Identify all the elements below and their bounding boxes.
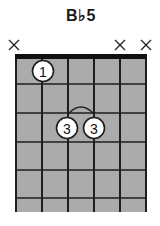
muted-markers <box>9 40 151 50</box>
mute-x-icon <box>141 40 151 50</box>
finger-dot: 3 <box>57 118 78 139</box>
svg-text:3: 3 <box>63 121 71 137</box>
svg-text:3: 3 <box>90 121 98 137</box>
finger-dot: 3 <box>84 118 105 139</box>
mute-x-icon <box>115 40 125 50</box>
finger-dot: 1 <box>33 61 54 82</box>
chord-diagram: 1 3 3 <box>0 0 160 226</box>
nut <box>15 54 147 59</box>
mute-x-icon <box>9 40 19 50</box>
svg-text:1: 1 <box>39 64 47 80</box>
